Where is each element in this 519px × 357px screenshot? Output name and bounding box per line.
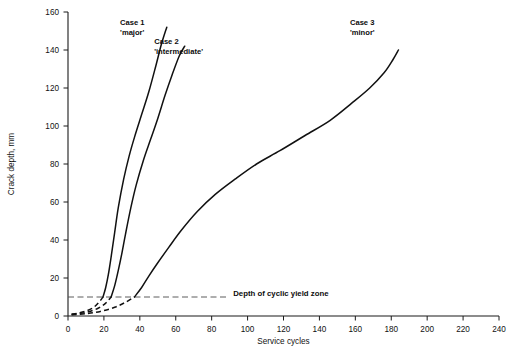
chart-canvas: 0204060801001201401600204060801001201401… [0,0,519,357]
series-2-label-qualifier: 'intermediate' [154,47,203,56]
series-1-label-name: Case 1 [120,18,145,27]
y-axis-tick-label: 100 [45,122,59,131]
y-axis-tick-label: 140 [45,46,59,55]
y-axis-title: Crack depth, mm [7,133,16,196]
y-axis-tick-label: 80 [50,160,60,169]
series-3-label-qualifier: 'minor' [350,28,375,37]
series-2-initiation-curve [72,297,112,314]
x-axis-tick-label: 140 [313,325,327,334]
x-axis-tick-label: 40 [135,325,145,334]
data-series-group [72,27,399,315]
y-axis-tick-label: 0 [54,312,59,321]
axis-ticks-group [64,12,500,321]
x-axis-title: Service cycles [257,337,309,346]
series-labels-group: Case 1'major'Case 2'intermediate'Case 3'… [120,18,375,56]
x-axis-tick-label: 80 [207,325,217,334]
x-axis-tick-label: 100 [241,325,255,334]
x-axis-tick-label: 180 [384,325,398,334]
x-axis-tick-label: 20 [99,325,109,334]
y-axis-tick-label: 160 [45,8,59,17]
series-2-curve [111,46,185,297]
x-axis-tick-label: 160 [348,325,362,334]
y-axis-tick-label: 40 [50,236,60,245]
axes-group [68,12,499,316]
y-axis-tick-label: 120 [45,84,59,93]
series-1-label-qualifier: 'major' [120,28,144,37]
series-2-label-name: Case 2 [154,37,179,46]
x-axis-tick-label: 0 [66,325,71,334]
x-axis-tick-label: 240 [492,325,506,334]
cyclic-yield-zone-label: Depth of cyclic yield zone [233,289,329,298]
x-axis-tick-label: 220 [456,325,470,334]
series-1-curve [103,27,167,297]
y-axis-tick-label: 60 [50,198,60,207]
y-axis-tick-label: 20 [50,274,60,283]
series-3-curve [134,50,398,297]
x-axis-tick-label: 120 [277,325,291,334]
x-axis-tick-label: 200 [420,325,434,334]
x-axis-tick-label: 60 [171,325,181,334]
series-3-label-name: Case 3 [350,18,375,27]
annotations-group: Depth of cyclic yield zone [68,289,329,298]
crack-growth-chart: 0204060801001201401600204060801001201401… [0,0,519,357]
